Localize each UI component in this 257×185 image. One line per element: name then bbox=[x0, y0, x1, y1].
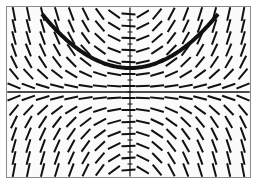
slope-segment bbox=[169, 165, 175, 176]
slope-segment bbox=[8, 96, 19, 101]
slope-segment bbox=[37, 84, 48, 88]
slope-segment bbox=[227, 140, 231, 151]
slope-segment bbox=[83, 21, 89, 31]
slope-segment bbox=[198, 141, 203, 152]
slope-segment bbox=[109, 48, 120, 52]
slope-segment bbox=[95, 130, 105, 137]
slope-segment bbox=[82, 33, 89, 43]
slope-segment bbox=[52, 106, 62, 113]
slope-segment bbox=[109, 143, 120, 148]
slope-segment bbox=[212, 129, 217, 140]
slope-segment bbox=[54, 129, 60, 139]
slope-segment bbox=[27, 8, 30, 20]
slope-segment bbox=[39, 117, 46, 127]
slope-segment bbox=[184, 164, 188, 175]
slope-segment bbox=[242, 20, 245, 32]
slope-segment bbox=[109, 23, 119, 29]
slope-segment bbox=[137, 61, 149, 64]
slope-segment bbox=[223, 96, 234, 100]
slope-segment bbox=[108, 98, 120, 99]
slope-segment bbox=[55, 140, 60, 151]
slope-segment bbox=[10, 69, 18, 78]
slope-segment bbox=[83, 165, 88, 176]
slope-segment bbox=[67, 118, 75, 127]
slope-segment bbox=[227, 32, 231, 43]
slope-segment bbox=[211, 57, 218, 67]
slope-segment bbox=[212, 45, 217, 56]
slope-segment bbox=[66, 107, 76, 113]
slope-segment bbox=[198, 8, 202, 19]
slope-segment bbox=[194, 97, 206, 100]
slope-segment bbox=[123, 38, 135, 39]
slope-segment bbox=[55, 8, 58, 19]
slope-segment bbox=[123, 14, 135, 15]
slope-segment bbox=[167, 130, 175, 139]
slope-segment bbox=[210, 70, 219, 78]
slope-segment bbox=[96, 142, 105, 150]
slope-segment bbox=[23, 96, 34, 100]
slope-segment bbox=[25, 117, 31, 127]
slope-segment bbox=[94, 85, 106, 86]
slope-segment bbox=[80, 97, 92, 99]
slope-segment bbox=[12, 32, 15, 44]
slope-segment bbox=[96, 165, 103, 175]
slope-segment bbox=[210, 106, 219, 114]
slope-segment bbox=[137, 23, 148, 28]
slope-segment bbox=[38, 106, 47, 114]
slope-segment bbox=[41, 20, 44, 32]
slope-segment bbox=[198, 164, 202, 175]
slope-segment bbox=[138, 11, 148, 17]
slope-segment bbox=[109, 155, 119, 161]
slope-segment bbox=[183, 33, 189, 43]
slope-segment bbox=[66, 71, 76, 77]
slope-segment bbox=[209, 84, 221, 87]
slope-segment bbox=[11, 117, 16, 128]
slope-segment bbox=[55, 152, 59, 163]
slope-segment bbox=[151, 72, 163, 75]
slope-segment bbox=[153, 165, 161, 174]
slope-segment bbox=[13, 164, 15, 176]
slope-segment bbox=[153, 142, 162, 150]
slope-segment bbox=[168, 141, 175, 151]
slope-segment bbox=[180, 97, 192, 99]
slope-segment bbox=[108, 120, 120, 123]
slope-segment bbox=[165, 85, 177, 87]
slope-segment bbox=[137, 48, 148, 52]
slope-segment bbox=[237, 96, 248, 100]
slope-segment bbox=[65, 85, 77, 87]
slope-segment bbox=[169, 9, 175, 20]
slope-segment bbox=[27, 20, 30, 32]
slope-segment bbox=[69, 21, 74, 32]
slope-segment bbox=[239, 69, 247, 78]
slope-segment bbox=[183, 141, 189, 151]
slope-segment bbox=[40, 45, 45, 56]
slope-segment bbox=[227, 152, 230, 164]
slope-segment bbox=[94, 108, 105, 112]
slope-segment bbox=[65, 97, 77, 99]
slope-segment bbox=[227, 164, 230, 176]
slope-segment bbox=[51, 97, 63, 100]
slope-segment bbox=[239, 105, 247, 114]
slope-segment bbox=[109, 166, 119, 173]
slope-segment bbox=[38, 70, 47, 78]
slope-segment bbox=[241, 128, 245, 139]
slope-segment bbox=[196, 57, 204, 66]
slope-segment bbox=[195, 106, 205, 113]
slope-segment bbox=[168, 33, 175, 43]
slope-segment bbox=[225, 106, 233, 115]
slope-segment bbox=[123, 146, 135, 147]
slope-segment bbox=[109, 10, 119, 17]
slope-segment bbox=[94, 72, 105, 76]
slope-segment bbox=[195, 70, 205, 77]
slope-segment bbox=[69, 164, 73, 175]
slope-segment bbox=[183, 153, 188, 164]
slope-segment bbox=[226, 57, 232, 67]
slope-segment bbox=[24, 70, 32, 79]
slope-segment bbox=[109, 35, 120, 40]
slope-segment bbox=[13, 8, 15, 20]
slope-segment bbox=[165, 97, 177, 99]
slope-segment bbox=[137, 36, 148, 40]
slope-segment bbox=[68, 129, 75, 139]
slope-segment bbox=[226, 117, 232, 127]
slope-segment bbox=[81, 58, 90, 65]
